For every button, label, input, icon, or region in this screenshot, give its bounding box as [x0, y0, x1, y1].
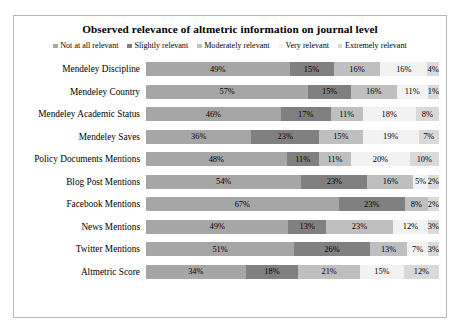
bar-segment: 36% — [146, 130, 251, 144]
stacked-bar: 54%23%16%5%2% — [146, 175, 439, 189]
bar-value-label: 49% — [210, 65, 225, 74]
chart-row: Policy Documents Mentions48%11%11%20%10% — [20, 148, 439, 171]
bar-segment: 23% — [251, 130, 318, 144]
bar-segment: 15% — [290, 62, 334, 76]
chart-row: Mendeley Saves36%23%15%19%7% — [20, 126, 439, 149]
chart-row: Mendeley Academic Status46%17%11%18%8% — [20, 103, 439, 126]
stacked-bar: 48%11%11%20%10% — [146, 152, 439, 166]
bar-segment: 16% — [367, 175, 413, 189]
bar-value-label: 5% — [415, 177, 426, 186]
bar-segment: 21% — [298, 265, 360, 279]
bar-value-label: 17% — [298, 110, 313, 119]
bar-segment: 10% — [410, 152, 439, 166]
chart-row: Twitter Mentions51%26%13%7%3% — [20, 238, 439, 261]
bar-segment: 54% — [146, 175, 301, 189]
legend-label: Not at all relevant — [60, 42, 118, 50]
bar-value-label: 23% — [327, 177, 342, 186]
stacked-bar: 49%13%23%12%3% — [146, 220, 439, 234]
legend-item[interactable]: Very relevant — [279, 42, 329, 50]
bar-value-label: 23% — [278, 132, 293, 141]
bar-value-label: 15% — [322, 87, 337, 96]
category-label: Altmetric Score — [20, 267, 146, 277]
bar-segment: 67% — [146, 197, 339, 211]
bar-value-label: 48% — [209, 155, 224, 164]
bar-segment: 18% — [363, 107, 416, 121]
bar-segment: 4% — [427, 62, 439, 76]
bar-segment: 20% — [351, 152, 410, 166]
bar-value-label: 54% — [216, 177, 231, 186]
stacked-bar: 36%23%15%19%7% — [146, 130, 439, 144]
bar-value-label: 34% — [188, 267, 203, 276]
bar-value-label: 13% — [300, 222, 315, 231]
stacked-bar: 67%23%8%2% — [146, 197, 439, 211]
legend-item[interactable]: Not at all relevant — [53, 42, 118, 50]
category-label: Mendeley Country — [20, 87, 146, 97]
category-label: Policy Documents Mentions — [20, 154, 146, 164]
bar-value-label: 46% — [206, 110, 221, 119]
bar-value-label: 13% — [381, 245, 396, 254]
legend-swatch-icon — [127, 44, 132, 49]
bar-segment: 15% — [319, 130, 363, 144]
chart-container: Observed relevance of altmetric informat… — [13, 15, 447, 318]
bar-value-label: 10% — [417, 155, 432, 164]
bar-segment: 11% — [331, 107, 363, 121]
legend-label: Slightly relevant — [134, 42, 188, 50]
category-label: Twitter Mentions — [20, 244, 146, 254]
stacked-bar: 46%17%11%18%8% — [146, 107, 439, 121]
legend-item[interactable]: Extremely relevant — [338, 42, 407, 50]
legend-item[interactable]: Moderately relevant — [197, 42, 269, 50]
bar-value-label: 49% — [210, 222, 225, 231]
chart-row: Blog Post Mentions54%23%16%5%2% — [20, 171, 439, 194]
category-label: News Mentions — [20, 222, 146, 232]
bar-value-label: 19% — [383, 132, 398, 141]
category-label: Facebook Mentions — [20, 199, 146, 209]
legend-item[interactable]: Slightly relevant — [127, 42, 188, 50]
bar-value-label: 18% — [382, 110, 397, 119]
bar-segment: 7% — [419, 130, 440, 144]
legend-label: Very relevant — [286, 42, 329, 50]
bar-value-label: 15% — [333, 132, 348, 141]
bar-value-label: 12% — [414, 267, 429, 276]
category-label: Mendeley Discipline — [20, 64, 146, 74]
bar-segment: 49% — [146, 62, 290, 76]
bar-value-label: 11% — [405, 87, 420, 96]
bar-value-label: 23% — [364, 200, 379, 209]
bar-value-label: 11% — [339, 110, 354, 119]
bar-value-label: 2% — [428, 200, 439, 209]
bar-segment: 11% — [287, 152, 319, 166]
chart-title: Observed relevance of altmetric informat… — [14, 23, 446, 35]
bar-segment: 16% — [334, 62, 381, 76]
bar-segment: 11% — [319, 152, 351, 166]
legend-swatch-icon — [53, 44, 58, 49]
bar-segment: 15% — [308, 85, 351, 99]
bar-segment: 7% — [407, 242, 427, 256]
bar-value-label: 15% — [304, 65, 319, 74]
bar-segment: 2% — [428, 197, 439, 211]
stacked-bar: 51%26%13%7%3% — [146, 242, 439, 256]
bar-value-label: 1% — [428, 87, 439, 96]
bar-value-label: 51% — [212, 245, 227, 254]
bar-value-label: 21% — [321, 267, 336, 276]
bar-segment: 5% — [413, 175, 427, 189]
bar-segment: 23% — [301, 175, 367, 189]
bar-value-label: 36% — [191, 132, 206, 141]
bar-value-label: 3% — [428, 245, 439, 254]
bar-segment: 1% — [428, 85, 439, 99]
bar-value-label: 8% — [422, 110, 433, 119]
bar-segment: 15% — [360, 265, 404, 279]
bar-segment: 57% — [146, 85, 308, 99]
bar-value-label: 8% — [411, 200, 422, 209]
bar-segment: 8% — [416, 107, 439, 121]
bar-segment: 11% — [397, 85, 428, 99]
bar-value-label: 16% — [366, 87, 381, 96]
bar-segment: 23% — [326, 220, 393, 234]
chart-row: News Mentions49%13%23%12%3% — [20, 216, 439, 239]
bar-segment: 46% — [146, 107, 281, 121]
category-label: Mendeley Saves — [20, 132, 146, 142]
chart-row: Mendeley Discipline49%15%16%16%4% — [20, 58, 439, 81]
bar-segment: 16% — [380, 62, 427, 76]
category-label: Blog Post Mentions — [20, 177, 146, 187]
legend-swatch-icon — [279, 44, 284, 49]
bar-value-label: 11% — [295, 155, 310, 164]
bar-value-label: 26% — [324, 245, 339, 254]
